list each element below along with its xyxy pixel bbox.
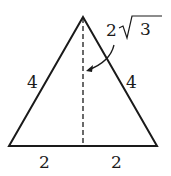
base-right-label: 2 (111, 152, 122, 172)
arrow-head-icon (86, 65, 93, 72)
altitude-radicand: 3 (140, 19, 151, 39)
left-side-label: 4 (27, 72, 38, 92)
base-left-label: 2 (39, 152, 50, 172)
altitude-coefficient: 2 (106, 20, 117, 40)
altitude-label: 2 3 (106, 16, 162, 40)
triangle-diagram: 4 4 2 2 2 3 (0, 0, 171, 176)
right-side-label: 4 (126, 72, 137, 92)
